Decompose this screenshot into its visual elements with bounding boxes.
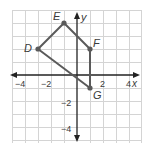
coordinate-plane: D E F G y x −4 −2 2 4 −2 −4 [0, 0, 150, 149]
x-tick-2: 2 [100, 79, 105, 89]
x-tick-4: 4 [126, 79, 131, 89]
y-tick-neg2: −2 [61, 98, 71, 108]
label-g: G [93, 89, 102, 101]
y-axis-label: y [80, 11, 88, 23]
x-tick-neg2: −2 [41, 79, 51, 89]
point-f [87, 46, 92, 51]
x-tick-neg4: −4 [15, 79, 25, 89]
label-e: E [53, 10, 61, 22]
label-d: D [24, 42, 32, 54]
label-f: F [93, 37, 101, 49]
point-d [35, 46, 40, 51]
y-tick-neg4: −4 [61, 124, 71, 134]
x-axis-label: x [131, 78, 138, 89]
point-e [61, 20, 66, 25]
point-g [87, 85, 92, 90]
